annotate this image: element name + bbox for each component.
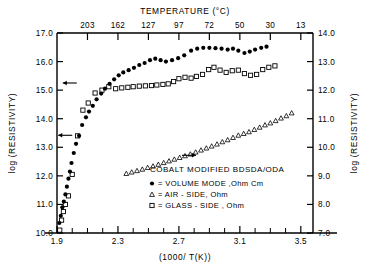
data-point-filled-circle [264,45,268,49]
right-tick-label: 12.0 [318,86,335,95]
data-point-open-triangle [289,111,294,115]
data-point-filled-circle [159,58,163,62]
data-point-open-triangle [236,133,241,137]
data-point-open-triangle [199,148,204,152]
left-axis-group: 10.011.012.013.014.015.016.017.0 log (RE… [7,29,63,238]
data-point-open-triangle [284,113,289,117]
data-point-open-square [261,67,265,71]
data-point-open-square [177,77,181,81]
top-tick-label: 50 [235,21,245,30]
data-point-open-square [93,91,97,95]
top-axis-title: TEMPERATURE (°C) [140,6,230,16]
data-point-filled-circle [80,123,84,127]
bottom-axis-group: 1.92.32.73.13.5 (1000/ T(K)) [51,226,307,262]
data-point-open-square [61,209,65,213]
top-tick-label: 30 [265,21,275,30]
bottom-tick-label: 2.3 [112,237,124,246]
data-point-open-square [161,82,165,86]
legend: COBALT MODIFIED BDSDA/ODA = VOLUME MODE … [150,165,285,210]
data-point-open-triangle [279,116,284,120]
data-point-open-square [81,108,85,112]
data-point-filled-circle [59,214,63,218]
data-point-filled-circle [60,205,64,209]
data-point-open-triangle [257,125,262,129]
data-point-filled-circle [207,46,211,50]
data-point-open-triangle [129,170,134,174]
data-point-open-square [189,76,193,80]
data-point-open-triangle [140,167,145,171]
data-point-open-square [126,85,130,89]
top-axis-ticks [87,33,300,40]
data-point-open-square [218,68,222,72]
bottom-tick-label: 3.1 [234,237,246,246]
data-point-open-triangle [247,129,252,133]
left-arrow-glass-upper [63,81,77,85]
data-point-filled-circle [72,151,76,155]
left-axis-ticks [57,33,63,233]
data-point-open-square [149,83,153,87]
right-tick-label: 13.0 [318,58,335,67]
left-arrow-volume [58,133,72,137]
data-point-open-square [143,84,147,88]
data-point-filled-circle [148,58,152,62]
data-point-filled-circle [121,70,125,74]
data-point-open-triangle [204,146,209,150]
data-point-open-triangle [177,155,182,159]
right-tick-label: 7.0 [318,229,330,238]
bottom-axis-title: (1000/ T(K)) [159,252,211,262]
data-point-filled-circle [253,47,257,51]
top-tick-label: 162 [111,21,126,30]
left-axis-title: log (RESISTIVITY) [7,93,17,173]
right-tick-label: 9.0 [318,172,330,181]
data-point-open-triangle [225,137,230,141]
data-point-open-square [150,203,154,207]
data-point-open-square [273,64,277,68]
legend-entry-label: = VOLUME MODE ,Ohm Cm [158,179,263,188]
data-point-open-triangle [193,150,198,154]
data-point-open-square [120,86,124,90]
data-point-open-square [86,101,90,105]
data-point-open-triangle [124,171,129,175]
data-point-open-square [200,72,204,76]
data-point-filled-circle [226,47,230,51]
right-tick-label: 11.0 [318,115,335,124]
data-point-open-square [194,74,198,78]
data-point-open-square [212,65,216,69]
top-tick-label: 97 [174,21,184,30]
bottom-tick-label: 3.5 [295,237,307,246]
data-point-open-square [171,79,175,83]
data-point-open-triangle [273,118,278,122]
data-point-filled-circle [219,47,223,51]
data-point-filled-circle [150,181,154,185]
data-point-filled-circle [231,47,235,51]
left-tick-label: 16.0 [36,58,53,67]
data-point-open-square [58,228,62,232]
data-point-open-square [242,71,246,75]
data-point-open-square [230,69,234,73]
legend-entry: = VOLUME MODE ,Ohm Cm [150,179,264,188]
data-point-filled-circle [242,51,246,55]
data-point-open-square [131,85,135,89]
data-point-open-triangle [167,159,172,163]
data-point-filled-circle [69,161,73,165]
data-point-open-triangle [172,157,177,161]
data-point-open-triangle [220,139,225,143]
right-tick-label: 8.0 [318,200,330,209]
legend-entry: = GLASS - SIDE , Ohm [150,201,244,210]
data-point-filled-circle [201,46,205,50]
right-axis-tick-labels: 7.08.09.010.011.012.013.014.0 [318,29,335,238]
data-point-filled-circle [259,46,263,50]
top-tick-label: 127 [141,21,156,30]
right-tick-label: 10.0 [318,143,335,152]
left-tick-label: 14.0 [36,115,53,124]
top-tick-label: 13 [296,21,306,30]
left-tick-label: 15.0 [36,86,53,95]
legend-entry: = AIR - SIDE, Ohm [150,190,228,199]
left-tick-label: 12.0 [36,172,53,181]
resistivity-arrhenius-chart: TEMPERATURE (°C) 2031621279772503013 10.… [0,0,370,267]
legend-entry-label: = GLASS - SIDE , Ohm [158,201,244,210]
data-point-filled-circle [195,47,199,51]
data-point-open-square [166,82,170,86]
bottom-axis-ticks [57,226,301,233]
left-axis-tick-labels: 10.011.012.013.014.015.016.017.0 [36,29,53,238]
